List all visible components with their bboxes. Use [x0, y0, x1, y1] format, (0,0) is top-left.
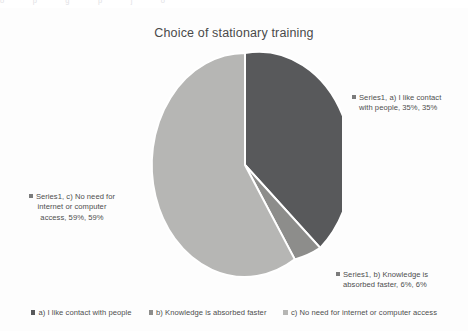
data-label-b-line1: Series1, b) Knowledge is — [343, 270, 428, 279]
pie-chart-figure: Choice of stationary training Series1, a… — [0, 8, 468, 331]
legend-label-b: b) Knowledge is absorbed faster — [156, 308, 266, 317]
legend-label-a: a) I like contact with people — [38, 308, 131, 317]
bleed-fragment: p — [98, 0, 102, 5]
data-label-a-line2: with people, 35%, 35% — [352, 103, 464, 113]
pie-svg — [148, 49, 342, 281]
data-label-a-line1: Series1, a) I like contact — [359, 93, 441, 102]
data-label-bullet-icon — [336, 272, 340, 276]
chart-title: Choice of stationary training — [0, 26, 468, 40]
data-label-c-line3: access, 59%, 59% — [14, 213, 130, 223]
bleed-fragment: o — [0, 0, 4, 5]
bleed-fragment: j — [131, 0, 133, 5]
legend-swatch-icon — [283, 310, 288, 315]
pie-graphic — [148, 49, 342, 281]
data-label-bullet-icon — [352, 95, 356, 99]
legend-item-b[interactable]: b) Knowledge is absorbed faster — [149, 308, 267, 317]
bleed-fragment: o — [161, 0, 165, 5]
data-label-a: Series1, a) I like contact with people, … — [352, 93, 464, 114]
legend-swatch-icon — [149, 310, 154, 315]
data-label-c-line2: internet or computer — [14, 202, 130, 212]
chart-legend: a) I like contact with people b) Knowled… — [0, 308, 468, 317]
data-label-b-line2: absorbed faster, 6%, 6% — [336, 280, 466, 290]
legend-label-c: c) No need for internet or computer acce… — [291, 308, 437, 317]
cropped-text-bleed: o p g p j o — [0, 0, 468, 6]
data-label-c: Series1, c) No need for internet or comp… — [14, 192, 130, 223]
legend-swatch-icon — [31, 310, 36, 315]
data-label-b: Series1, b) Knowledge is absorbed faster… — [336, 270, 466, 291]
data-label-c-line1: Series1, c) No need for — [36, 192, 115, 201]
legend-item-a[interactable]: a) I like contact with people — [31, 308, 132, 317]
bleed-fragment: p — [33, 0, 37, 5]
bleed-fragment: g — [65, 0, 69, 5]
data-label-bullet-icon — [29, 194, 33, 198]
legend-item-c[interactable]: c) No need for internet or computer acce… — [283, 308, 437, 317]
